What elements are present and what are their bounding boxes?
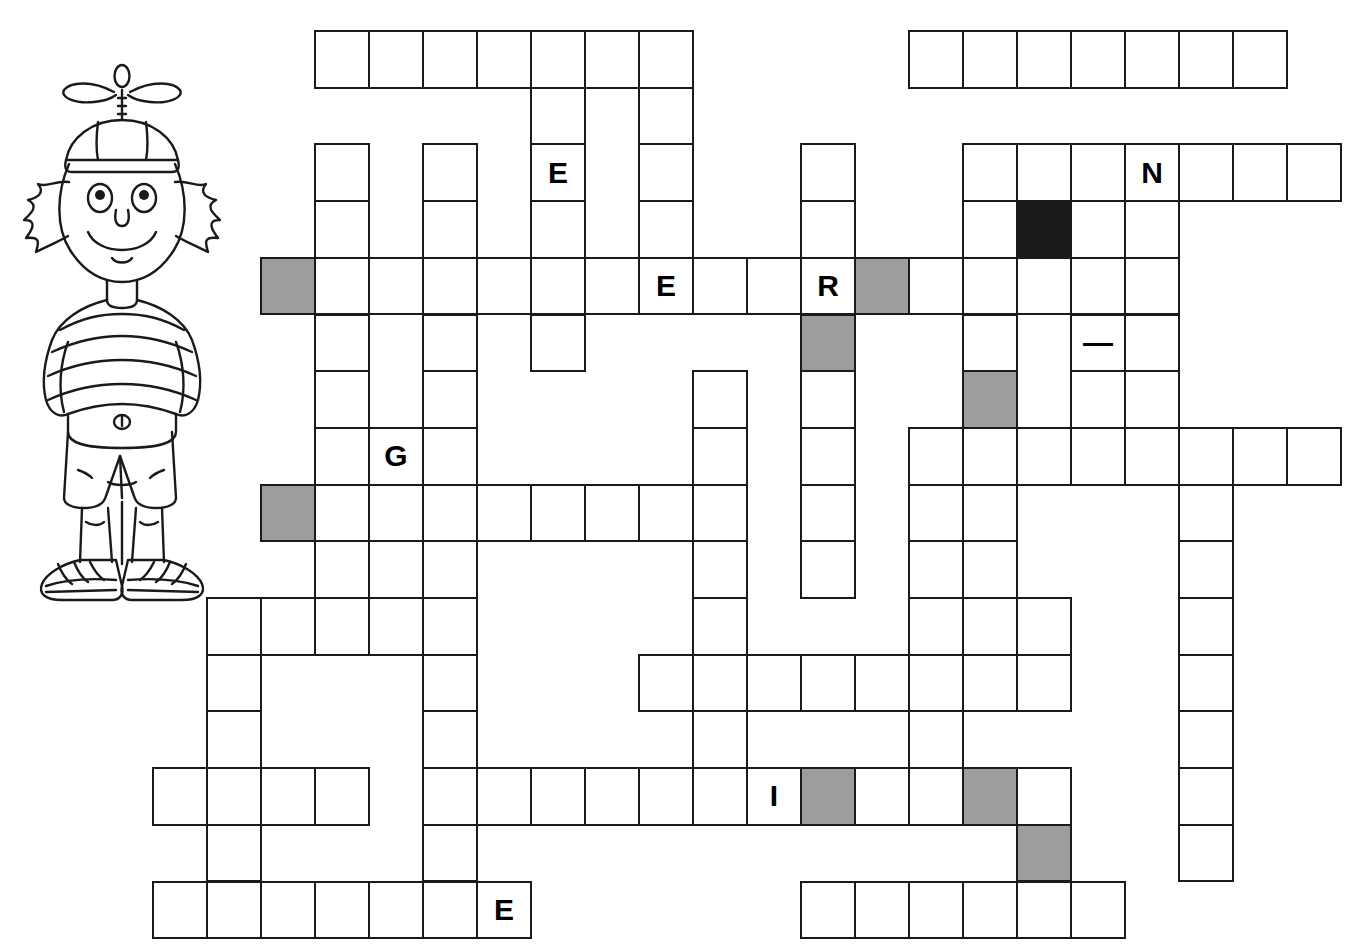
crossword-cell[interactable] (1286, 143, 1342, 202)
crossword-cell[interactable] (1124, 30, 1180, 89)
crossword-cell[interactable] (530, 767, 586, 826)
crossword-cell[interactable] (692, 597, 748, 656)
crossword-cell[interactable] (692, 767, 748, 826)
crossword-cell[interactable] (1016, 30, 1072, 89)
crossword-cell-filled[interactable]: G (368, 427, 424, 486)
crossword-cell[interactable] (422, 143, 478, 202)
crossword-cell[interactable] (314, 427, 370, 486)
crossword-cell[interactable] (422, 370, 478, 429)
crossword-cell[interactable] (206, 710, 262, 769)
crossword-cell[interactable] (1070, 427, 1126, 486)
crossword-cell[interactable] (1124, 257, 1180, 316)
crossword-cell[interactable] (1178, 710, 1234, 769)
crossword-cell[interactable] (692, 540, 748, 599)
crossword-cell-shaded[interactable] (962, 767, 1018, 826)
crossword-cell[interactable] (422, 881, 478, 940)
crossword-cell[interactable] (1016, 881, 1072, 940)
crossword-cell[interactable] (1070, 30, 1126, 89)
crossword-cell[interactable] (1232, 427, 1288, 486)
crossword-cell[interactable] (530, 257, 586, 316)
crossword-cell[interactable] (962, 597, 1018, 656)
crossword-cell[interactable] (530, 484, 586, 543)
crossword-cell[interactable] (800, 540, 856, 599)
crossword-cell[interactable] (1232, 143, 1288, 202)
crossword-cell[interactable] (1016, 597, 1072, 656)
crossword-cell-shaded[interactable] (1016, 824, 1072, 883)
crossword-cell[interactable] (908, 427, 964, 486)
crossword-cell[interactable] (908, 484, 964, 543)
crossword-cell[interactable] (800, 200, 856, 259)
crossword-cell[interactable] (638, 654, 694, 713)
crossword-cell-shaded[interactable] (962, 370, 1018, 429)
crossword-cell[interactable] (314, 370, 370, 429)
crossword-cell[interactable] (368, 881, 424, 940)
crossword-cell[interactable] (206, 824, 262, 883)
crossword-cell[interactable] (638, 484, 694, 543)
crossword-cell[interactable] (530, 87, 586, 146)
crossword-cell[interactable] (962, 257, 1018, 316)
crossword-cell[interactable] (422, 484, 478, 543)
crossword-cell[interactable] (638, 200, 694, 259)
crossword-cell[interactable] (962, 484, 1018, 543)
crossword-cell[interactable] (530, 314, 586, 373)
crossword-cell[interactable] (1016, 654, 1072, 713)
crossword-cell[interactable] (908, 540, 964, 599)
crossword-cell-filled[interactable]: N (1124, 143, 1180, 202)
crossword-cell[interactable] (1124, 314, 1180, 373)
crossword-cell[interactable] (368, 257, 424, 316)
crossword-cell[interactable] (800, 484, 856, 543)
crossword-cell[interactable] (422, 427, 478, 486)
crossword-cell[interactable] (908, 257, 964, 316)
crossword-cell[interactable] (1016, 427, 1072, 486)
crossword-cell[interactable] (962, 881, 1018, 940)
crossword-cell[interactable] (746, 257, 802, 316)
crossword-cell[interactable] (476, 30, 532, 89)
crossword-cell[interactable] (1016, 143, 1072, 202)
crossword-cell-shaded[interactable] (854, 257, 910, 316)
crossword-cell-shaded[interactable] (260, 257, 316, 316)
crossword-cell[interactable] (908, 881, 964, 940)
crossword-cell[interactable] (692, 484, 748, 543)
crossword-cell[interactable] (638, 30, 694, 89)
crossword-cell[interactable] (422, 824, 478, 883)
crossword-cell[interactable] (584, 484, 640, 543)
crossword-cell[interactable] (962, 654, 1018, 713)
crossword-cell[interactable] (962, 143, 1018, 202)
crossword-cell[interactable] (692, 257, 748, 316)
crossword-cell[interactable] (206, 597, 262, 656)
crossword-cell[interactable] (908, 767, 964, 826)
crossword-cell[interactable] (692, 370, 748, 429)
crossword-cell[interactable] (314, 30, 370, 89)
crossword-cell[interactable] (800, 881, 856, 940)
crossword-cell[interactable] (1178, 597, 1234, 656)
crossword-cell[interactable] (1178, 427, 1234, 486)
crossword-cell[interactable] (314, 767, 370, 826)
crossword-cell[interactable] (368, 597, 424, 656)
crossword-cell[interactable] (854, 767, 910, 826)
crossword-cell[interactable] (476, 484, 532, 543)
crossword-cell[interactable] (746, 654, 802, 713)
crossword-cell[interactable] (152, 881, 208, 940)
crossword-cell[interactable] (1232, 30, 1288, 89)
crossword-cell-filled[interactable]: E (476, 881, 532, 940)
crossword-cell[interactable] (314, 597, 370, 656)
crossword-cell[interactable] (314, 143, 370, 202)
crossword-cell[interactable] (530, 30, 586, 89)
crossword-cell[interactable] (422, 654, 478, 713)
crossword-cell-filled[interactable]: — (1070, 314, 1126, 373)
crossword-cell[interactable] (368, 30, 424, 89)
crossword-cell[interactable] (800, 427, 856, 486)
crossword-cell[interactable] (1178, 654, 1234, 713)
crossword-cell[interactable] (908, 710, 964, 769)
crossword-cell[interactable] (260, 881, 316, 940)
crossword-cell[interactable] (260, 767, 316, 826)
crossword-cell[interactable] (638, 87, 694, 146)
crossword-cell[interactable] (422, 314, 478, 373)
crossword-cell-filled[interactable]: E (530, 143, 586, 202)
crossword-cell[interactable] (962, 200, 1018, 259)
crossword-cell[interactable] (314, 314, 370, 373)
crossword-cell[interactable] (206, 767, 262, 826)
crossword-cell[interactable] (314, 484, 370, 543)
crossword-cell[interactable] (584, 767, 640, 826)
crossword-cell[interactable] (530, 200, 586, 259)
